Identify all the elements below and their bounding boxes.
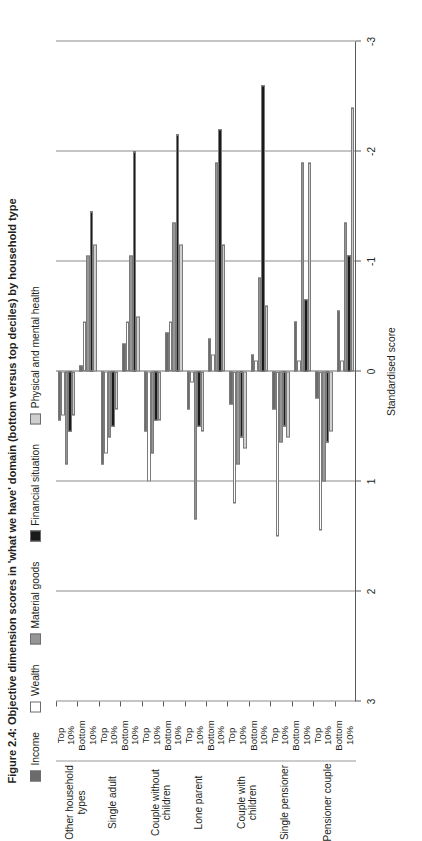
legend-label: Material goods	[30, 561, 41, 628]
group-separator	[313, 760, 356, 761]
bar	[136, 316, 140, 371]
gridline	[56, 41, 356, 42]
legend-swatch-icon	[30, 770, 41, 781]
bar	[308, 162, 312, 371]
legend-swatch-icon	[30, 413, 41, 424]
group-label: Single adult	[107, 763, 118, 841]
legend-item: Physical and mental health	[30, 286, 41, 424]
decile-label-bottom: Bottom10%	[206, 713, 227, 757]
axis-tick	[356, 701, 361, 702]
decile-label-bottom: Bottom10%	[291, 713, 312, 757]
axis-tick	[356, 481, 361, 482]
category-tick	[227, 701, 228, 706]
bar	[93, 245, 97, 372]
bar	[265, 305, 269, 371]
axis-tick-label: 1	[366, 478, 377, 484]
legend-item: Material goods	[30, 561, 41, 644]
decile-label-bottom: Bottom10%	[77, 713, 98, 757]
figure-title: Figure 2.4: Objective dimension scores i…	[6, 8, 19, 783]
decile-label-bottom: Bottom10%	[334, 713, 355, 757]
legend-item: Income	[30, 732, 41, 781]
category-tick	[249, 701, 250, 706]
axis-tick-label: 0	[366, 368, 377, 374]
group-label: Single pensioner	[279, 763, 290, 841]
decile-label-top: Top10%	[227, 713, 248, 757]
group-separator	[99, 760, 142, 761]
bar	[243, 371, 247, 448]
category-tick	[77, 701, 78, 706]
legend-label: Income	[30, 732, 41, 765]
legend-swatch-icon	[30, 633, 41, 644]
axis-tick	[356, 41, 361, 42]
gridline	[56, 481, 356, 482]
category-tick	[292, 701, 293, 706]
group-label: Couple with children	[236, 763, 259, 841]
bar	[179, 245, 183, 372]
legend-label: Wealth	[30, 664, 41, 696]
gridline	[56, 151, 356, 152]
axis-tick	[356, 591, 361, 592]
decile-label-top: Top10%	[184, 713, 205, 757]
chart-legend: IncomeWealthMaterial goodsFinancial situ…	[30, 9, 41, 781]
legend-swatch-icon	[30, 701, 41, 712]
category-tick	[163, 701, 164, 706]
decile-label-top: Top10%	[270, 713, 291, 757]
category-tick	[142, 701, 143, 706]
legend-swatch-icon	[30, 530, 41, 541]
decile-label-top: Top10%	[313, 713, 334, 757]
axis-tick-label: -3	[366, 37, 377, 46]
axis-tick	[356, 261, 361, 262]
gridline	[56, 591, 356, 592]
category-tick	[270, 701, 271, 706]
axis-tick-label: -1	[366, 257, 377, 266]
legend-label: Physical and mental health	[30, 286, 41, 408]
legend-item: Wealth	[30, 664, 41, 712]
bar	[115, 371, 119, 410]
axis-tick	[356, 151, 361, 152]
axis-tick-label: 2	[366, 588, 377, 594]
decile-label-top: Top10%	[141, 713, 162, 757]
legend-item: Financial situation	[30, 444, 41, 541]
group-separator	[185, 760, 228, 761]
group-separator	[227, 760, 270, 761]
plot-inner	[56, 41, 356, 701]
axis-tick-label: -2	[366, 147, 377, 156]
category-tick	[206, 701, 207, 706]
group-separator	[142, 760, 185, 761]
category-tick	[99, 701, 100, 706]
group-label: Couple without children	[150, 763, 173, 841]
axis-tick	[356, 371, 361, 372]
bar	[329, 371, 333, 432]
axis-tick-label: 3	[366, 698, 377, 704]
decile-label-bottom: Bottom10%	[120, 713, 141, 757]
category-tick	[56, 701, 57, 706]
category-tick	[313, 701, 314, 706]
decile-label-top: Top10%	[56, 713, 77, 757]
group-label: Other household types	[64, 763, 87, 841]
legend-label: Financial situation	[30, 444, 41, 525]
bar	[351, 107, 355, 371]
group-separator	[270, 760, 313, 761]
value-axis-title: Standardised score	[386, 41, 397, 701]
bar	[222, 245, 226, 372]
decile-label-bottom: Bottom10%	[163, 713, 184, 757]
bar	[72, 371, 76, 415]
plot-area: Standardised score 3210-1-2-3	[56, 41, 356, 701]
category-tick	[335, 701, 336, 706]
category-tick	[185, 701, 186, 706]
group-label: Lone parent	[193, 763, 204, 841]
bar	[158, 371, 162, 421]
bar	[286, 371, 290, 437]
group-separator	[56, 760, 99, 761]
decile-label-bottom: Bottom10%	[249, 713, 270, 757]
bar	[201, 371, 205, 432]
category-tick	[120, 701, 121, 706]
group-label: Pensioner couple	[322, 763, 333, 841]
decile-label-top: Top10%	[99, 713, 120, 757]
